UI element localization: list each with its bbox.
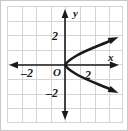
y-axis-label: y (73, 8, 78, 19)
x-tick-label-neg2: –2 (21, 67, 33, 79)
x-tick-label-2: 2 (85, 69, 91, 81)
coordinate-graph-figure: y x O 2 –2 –2 2 (0, 0, 128, 131)
graph-canvas (0, 0, 128, 131)
y-tick-label-neg2: –2 (46, 87, 58, 99)
y-tick-label-2: 2 (52, 30, 58, 42)
x-axis-label: x (108, 52, 114, 63)
origin-label: O (53, 67, 61, 78)
